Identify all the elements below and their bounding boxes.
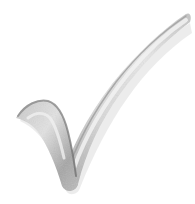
checkmark-icon — [0, 0, 195, 204]
checkmark-canvas: Grayscale 3D-shaded check mark — [0, 0, 195, 204]
